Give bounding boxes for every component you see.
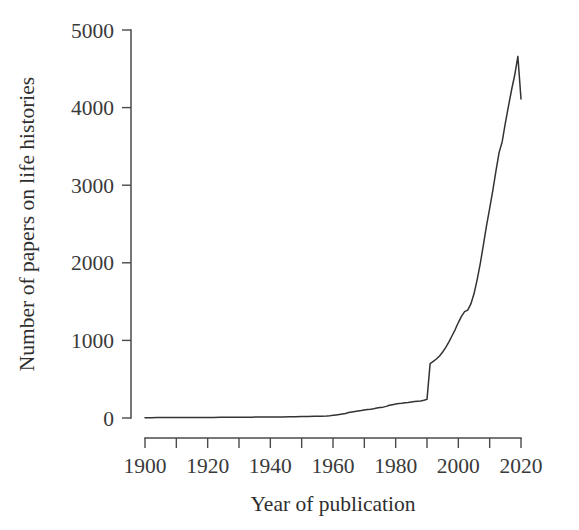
y-tick-label: 1000 — [71, 329, 114, 353]
x-tick-label: 1900 — [124, 454, 167, 478]
y-tick-label: 2000 — [71, 251, 114, 275]
x-tick-label: 1980 — [374, 454, 417, 478]
x-tick-label: 1920 — [186, 454, 229, 478]
x-tick-label: 1960 — [312, 454, 355, 478]
x-axis-title: Year of publication — [250, 492, 415, 516]
x-tick-label: 2020 — [500, 454, 543, 478]
chart-figure: 010002000300040005000 190019201940196019… — [0, 0, 579, 530]
y-tick-label: 4000 — [71, 96, 114, 120]
x-axis-tick-labels: 1900192019401960198020002020 — [124, 454, 543, 478]
x-axis-ticks — [145, 438, 521, 448]
y-tick-label: 5000 — [71, 19, 114, 43]
x-tick-label: 2000 — [437, 454, 480, 478]
data-series-line — [145, 56, 521, 417]
x-tick-label: 1940 — [249, 454, 292, 478]
y-axis-ticks — [122, 30, 131, 418]
line-chart-svg: 010002000300040005000 190019201940196019… — [0, 0, 579, 530]
y-tick-label: 0 — [103, 407, 114, 431]
y-axis-title: Number of papers on life histories — [15, 77, 39, 371]
y-axis-tick-labels: 010002000300040005000 — [71, 19, 114, 431]
y-tick-label: 3000 — [71, 174, 114, 198]
